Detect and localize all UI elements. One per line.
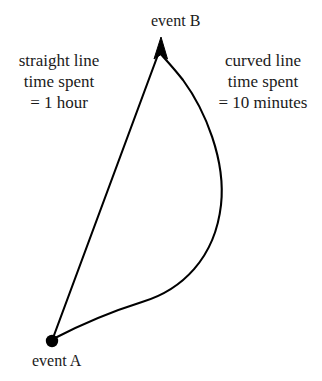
straight-line-annotation: straight line time spent = 1 hour — [0, 50, 118, 113]
arrowhead-icon — [154, 37, 168, 59]
straight-line-annotation-line-2: time spent — [0, 71, 118, 92]
straight-line-annotation-line-3: = 1 hour — [0, 92, 118, 113]
curved-line-annotation-line-2: time spent — [204, 71, 322, 92]
event-a-label: event A — [32, 352, 81, 370]
event-a-dot — [46, 335, 58, 347]
event-b-label: event B — [151, 12, 200, 30]
curved-line-annotation: curved line time spent = 10 minutes — [204, 50, 322, 113]
diagram-canvas: event B straight line time spent = 1 hou… — [0, 0, 322, 381]
straight-line-annotation-line-1: straight line — [0, 50, 118, 71]
curved-line-annotation-line-1: curved line — [204, 50, 322, 71]
curved-line-annotation-line-3: = 10 minutes — [204, 92, 322, 113]
